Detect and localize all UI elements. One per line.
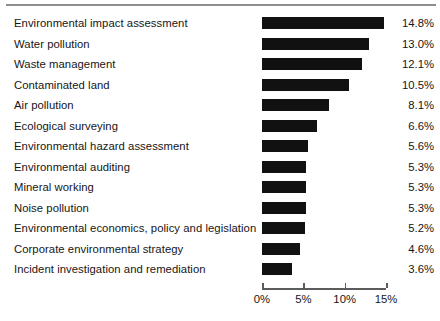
chart-row: Corporate environmental strategy4.6% <box>0 239 440 260</box>
category-label: Corporate environmental strategy <box>14 243 183 255</box>
chart-row: Incident investigation and remediation3.… <box>0 259 440 280</box>
bar-track <box>262 38 387 50</box>
bar <box>262 58 362 70</box>
x-axis-tick-label: 15% <box>375 293 398 305</box>
x-axis-tick <box>386 283 388 288</box>
chart-row: Ecological surveying6.6% <box>0 116 440 137</box>
x-axis-tick <box>262 283 264 288</box>
bar <box>262 243 300 255</box>
value-label: 5.2% <box>386 222 434 234</box>
bar-track <box>262 263 387 275</box>
value-label: 5.3% <box>386 202 434 214</box>
category-label: Waste management <box>14 58 115 70</box>
bar-track <box>262 17 387 29</box>
category-label: Incident investigation and remediation <box>14 263 206 275</box>
bar <box>262 181 306 193</box>
bar <box>262 79 349 91</box>
x-axis-tick <box>303 283 305 288</box>
top-divider-rule <box>6 4 436 6</box>
x-axis-line <box>262 288 386 290</box>
category-label: Environmental impact assessment <box>14 17 188 29</box>
bar <box>262 202 306 214</box>
bar-track <box>262 181 387 193</box>
bar <box>262 38 369 50</box>
x-axis-tick-label: 0% <box>254 293 270 305</box>
value-label: 14.8% <box>386 17 434 29</box>
x-axis-tick-label: 10% <box>333 293 356 305</box>
category-label: Air pollution <box>14 99 74 111</box>
bar-chart: Environmental impact assessment14.8%Wate… <box>0 0 440 321</box>
bar <box>262 120 317 132</box>
category-label: Ecological surveying <box>14 120 118 132</box>
chart-row: Environmental economics, policy and legi… <box>0 218 440 239</box>
bar <box>262 222 305 234</box>
value-label: 8.1% <box>386 99 434 111</box>
chart-rows: Environmental impact assessment14.8%Wate… <box>0 13 440 280</box>
bar-track <box>262 161 387 173</box>
x-axis-tick <box>345 283 347 288</box>
value-label: 6.6% <box>386 120 434 132</box>
bar <box>262 99 329 111</box>
bar-track <box>262 99 387 111</box>
bar-track <box>262 222 387 234</box>
bar <box>262 140 308 152</box>
category-label: Water pollution <box>14 38 90 50</box>
bar-track <box>262 140 387 152</box>
chart-row: Environmental hazard assessment5.6% <box>0 136 440 157</box>
value-label: 4.6% <box>386 243 434 255</box>
value-label: 5.6% <box>386 140 434 152</box>
x-axis-tick-label: 5% <box>295 293 311 305</box>
value-label: 10.5% <box>386 79 434 91</box>
chart-row: Waste management12.1% <box>0 54 440 75</box>
category-label: Mineral working <box>14 181 94 193</box>
bar-track <box>262 202 387 214</box>
chart-row: Noise pollution5.3% <box>0 198 440 219</box>
chart-row: Air pollution8.1% <box>0 95 440 116</box>
bar-track <box>262 243 387 255</box>
bar-track <box>262 79 387 91</box>
category-label: Environmental hazard assessment <box>14 140 189 152</box>
category-label: Noise pollution <box>14 202 89 214</box>
bar <box>262 263 292 275</box>
chart-row: Water pollution13.0% <box>0 34 440 55</box>
bar <box>262 161 306 173</box>
bar-track <box>262 120 387 132</box>
category-label: Environmental auditing <box>14 161 130 173</box>
chart-row: Mineral working5.3% <box>0 177 440 198</box>
value-label: 13.0% <box>386 38 434 50</box>
bar <box>262 17 384 29</box>
category-label: Contaminated land <box>14 79 110 91</box>
value-label: 12.1% <box>386 58 434 70</box>
chart-row: Contaminated land10.5% <box>0 75 440 96</box>
value-label: 5.3% <box>386 181 434 193</box>
chart-row: Environmental impact assessment14.8% <box>0 13 440 34</box>
category-label: Environmental economics, policy and legi… <box>14 222 256 234</box>
value-label: 3.6% <box>386 263 434 275</box>
chart-row: Environmental auditing5.3% <box>0 157 440 178</box>
bar-track <box>262 58 387 70</box>
value-label: 5.3% <box>386 161 434 173</box>
